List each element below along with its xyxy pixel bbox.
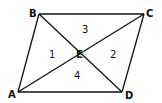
vertex-label-b: B [29, 8, 37, 19]
vertex-label-c: C [146, 8, 153, 19]
vertex-label-e: E [76, 49, 83, 60]
vertex-label-d: D [125, 90, 133, 101]
parallelogram-diagram: ABCDE 1234 [0, 0, 162, 103]
region-label-4: 4 [74, 70, 80, 81]
region-label-2: 2 [110, 49, 116, 60]
region-label-1: 1 [49, 49, 55, 60]
vertex-label-a: A [8, 89, 16, 100]
region-label-3: 3 [82, 24, 88, 35]
